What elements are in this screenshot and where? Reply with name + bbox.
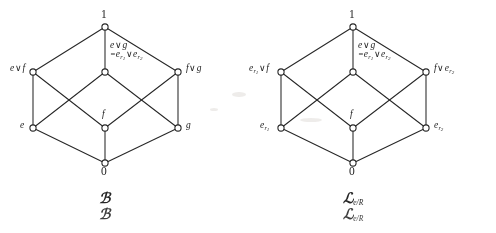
edge-lowerright-bottom <box>105 128 178 163</box>
node-label-lower-left: e <box>20 121 24 131</box>
diagram-caption-right: ℒe/R <box>328 190 378 207</box>
node-lower-center <box>350 125 356 131</box>
node-top <box>102 24 108 30</box>
join-operator-icon: ∨ <box>373 49 381 59</box>
node-label-bottom: 0 <box>349 166 355 178</box>
node-label-upper-right: f∨g <box>186 64 202 74</box>
caption-script-symbol: ℒ <box>343 190 354 206</box>
node-upper-right <box>175 69 181 75</box>
lattice-diagram-left: 1 e∨f e∨g =er1∨er2 f∨g e f g 0 ℬ ℬ <box>0 0 248 233</box>
node-lower-left <box>278 125 284 131</box>
node-label-upper-right: f∨er2 <box>434 64 454 75</box>
edge-lowerleft-bottom <box>281 128 353 163</box>
node-label-lower-center: f <box>102 110 105 120</box>
lattice-diagram-right: 1 er1∨f e∨g =er1∨er2 f∨er2 er1 f er2 0 ℒ… <box>248 0 496 233</box>
diagram-caption-right-ghost: ℒe/R <box>328 206 378 223</box>
caption-script-symbol-ghost: ℬ <box>99 206 111 222</box>
node-label-top: 1 <box>101 9 107 21</box>
node-lower-center <box>102 125 108 131</box>
lower-right-term-sub2: 2 <box>441 127 444 132</box>
lower-left-term-sub2: 1 <box>267 127 270 132</box>
node-label-upper-left: e∨f <box>10 64 25 74</box>
diagram-caption-left: ℬ <box>85 190 125 207</box>
upper-left-term2: f <box>22 63 25 73</box>
caption-script-symbol: ℬ <box>99 190 111 206</box>
node-upper-right <box>423 69 429 75</box>
node-upper-left <box>30 69 36 75</box>
node-upper-center <box>102 69 108 75</box>
node-label-lower-left: er1 <box>260 121 269 132</box>
lower-left-term-sub: r1 <box>264 124 269 131</box>
node-label-top: 1 <box>349 9 355 21</box>
node-label-bottom: 0 <box>101 166 107 178</box>
edge-lowerleft-bottom <box>33 128 105 163</box>
caption-subscript-ghost: e/R <box>353 214 363 223</box>
scan-speck <box>210 108 218 111</box>
upper-right-term2: g <box>197 63 202 73</box>
node-lower-left <box>30 125 36 131</box>
upper-center-line2: =er1∨er2 <box>110 50 142 61</box>
node-upper-center <box>350 69 356 75</box>
upper-center-term4-sub: r2 <box>138 53 143 60</box>
figure-root: 1 e∨f e∨g =er1∨er2 f∨g e f g 0 ℬ ℬ <box>0 0 496 233</box>
node-label-upper-center: e∨g =er1∨er2 <box>110 41 142 61</box>
edge-top-upperleft <box>33 27 105 72</box>
edge-lowerright-bottom <box>353 128 426 163</box>
diagram-caption-left-ghost: ℬ <box>85 206 125 223</box>
upper-center-line2: =er1∨er2 <box>358 50 390 61</box>
node-label-upper-center: e∨g =er1∨er2 <box>358 41 390 61</box>
edge-top-upperleft <box>281 27 353 72</box>
upper-center-term4-sub2: 2 <box>388 56 391 61</box>
scan-speck <box>300 118 322 122</box>
node-top <box>350 24 356 30</box>
node-label-upper-left: er1∨f <box>249 64 269 75</box>
scan-speck <box>232 92 246 97</box>
node-lower-right <box>423 125 429 131</box>
node-label-lower-right: g <box>186 121 191 131</box>
node-upper-left <box>278 69 284 75</box>
upper-right-term2-sub: r2 <box>449 67 454 74</box>
join-operator-icon: ∨ <box>189 63 197 73</box>
node-label-lower-right: er2 <box>434 121 443 132</box>
join-operator-icon: ∨ <box>437 63 445 73</box>
node-lower-right <box>175 125 181 131</box>
node-label-lower-center: f <box>350 110 353 120</box>
caption-script-symbol-ghost: ℒ <box>343 206 354 222</box>
join-operator-icon: ∨ <box>125 49 133 59</box>
upper-right-term2-sub2: 2 <box>452 70 455 75</box>
upper-center-term4-sub2: 2 <box>140 56 143 61</box>
upper-center-term4-sub: r2 <box>386 53 391 60</box>
lower-right-term-sub: r2 <box>438 124 443 131</box>
upper-left-term2: f <box>266 63 269 73</box>
